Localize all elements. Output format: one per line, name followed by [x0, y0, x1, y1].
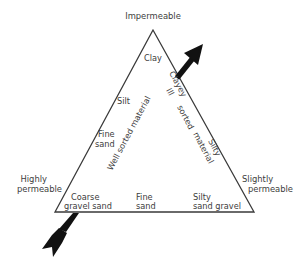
vertex-left-label-line2: permeable: [17, 184, 62, 194]
material-silt: Silt: [117, 96, 131, 106]
gradient-ill-sorted-word1: Ill: [164, 86, 176, 97]
material-clay: Clay: [144, 53, 162, 63]
arrow-head-icon: [177, 44, 203, 78]
gradient-ill-sorted-word2: sorted: [175, 103, 196, 131]
material-fine-sand-left-line2: sand: [95, 139, 115, 149]
vertex-left-label-line1: Highly: [20, 174, 47, 184]
material-silty-sand-gravel-line2: sand gravel: [193, 201, 241, 211]
material-fine-sand-left-line1: Fine: [98, 129, 115, 139]
arrow-tail-icon: [42, 213, 79, 257]
vertex-right-label-line2: permeable: [248, 184, 293, 194]
ternary-diagram: Impermeable Highly permeable Slightly pe…: [0, 0, 306, 263]
vertex-top-label: Impermeable: [125, 11, 181, 21]
material-fine-sand-bottom-line2: sand: [136, 201, 156, 211]
vertex-right-label-line1: Slightly: [242, 174, 273, 184]
material-coarse-gravel-sand-line2: gravel sand: [64, 201, 112, 211]
